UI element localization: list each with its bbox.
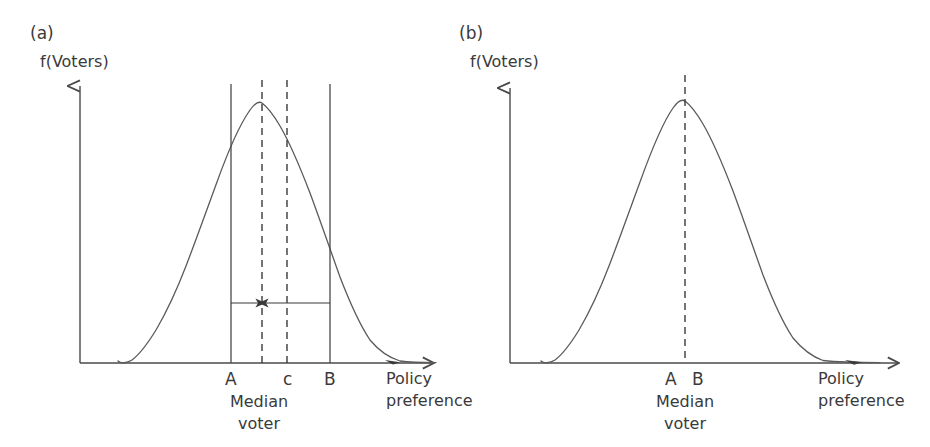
panel-b-median-caption-line2: voter xyxy=(630,415,740,433)
panel-a-tick-label-b: B xyxy=(324,370,336,390)
panel-a-density-curve xyxy=(118,102,436,363)
panel-a-y-axis-label: f(Voters) xyxy=(40,53,109,71)
panel-a-x-axis-label-line1: Policy xyxy=(386,369,432,389)
panel-b-tick-label-b: B xyxy=(692,370,704,390)
panel-b-tag: (b) xyxy=(459,24,483,44)
panel-a-axes xyxy=(80,86,434,363)
panel-a-tick-label-c: c xyxy=(283,370,292,390)
panel-b-axes xyxy=(510,88,899,363)
figure-canvas: (a) f(Voters) A c B Median voter Policy … xyxy=(0,0,930,447)
panel-b-x-axis-label-line1: Policy xyxy=(818,369,864,389)
panel-a-median-caption-line1: Median xyxy=(204,393,314,411)
panel-b-median-caption-line1: Median xyxy=(630,393,740,411)
panel-a-tick-label-a: A xyxy=(225,370,237,390)
panel-a-median-caption-line2: voter xyxy=(204,415,314,433)
panel-a-tag: (a) xyxy=(30,24,54,44)
panel-b-density-curve xyxy=(541,100,880,363)
panel-b-y-axis-label: f(Voters) xyxy=(470,53,539,71)
panel-b-tick-label-a: A xyxy=(665,370,677,390)
panel-b-x-axis-label-line2: preference xyxy=(818,391,905,411)
panel-a-x-axis-label-line2: preference xyxy=(386,391,473,411)
figure-vector-layer xyxy=(0,0,930,447)
